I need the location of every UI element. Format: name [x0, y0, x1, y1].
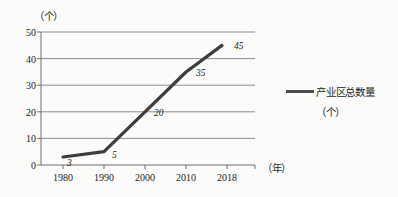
data-label-2018: 45	[234, 41, 244, 51]
y-tick-20: 20	[14, 107, 36, 118]
x-tick-1990: 1990	[84, 172, 124, 183]
x-tick-2010: 2010	[166, 172, 206, 183]
legend-unit: （个）	[286, 104, 396, 119]
x-tick-2000: 2000	[125, 172, 165, 183]
data-label-2000: 20	[154, 108, 164, 118]
data-label-1990: 5	[112, 150, 117, 160]
y-tick-30: 30	[14, 80, 36, 91]
data-series-line	[63, 45, 222, 157]
gridlines	[41, 32, 255, 138]
chart-page: （个） （年）	[0, 0, 398, 197]
legend-line-swatch-icon	[286, 90, 314, 94]
x-axis-ticks	[63, 165, 255, 169]
legend-label: 产业区总数量	[316, 84, 375, 99]
x-tick-2018: 2018	[207, 172, 247, 183]
y-tick-10: 10	[14, 133, 36, 144]
chart-legend: 产业区总数量 （个）	[286, 84, 396, 119]
y-axis-ticks	[37, 32, 41, 165]
y-tick-0: 0	[14, 160, 36, 171]
x-tick-1980: 1980	[43, 172, 83, 183]
legend-item-total-zones: 产业区总数量	[286, 84, 396, 99]
line-chart: （个） （年）	[0, 0, 398, 197]
y-tick-40: 40	[14, 54, 36, 65]
data-label-1980: 3	[67, 158, 72, 168]
y-tick-50: 50	[14, 27, 36, 38]
data-label-2010: 35	[196, 68, 206, 78]
